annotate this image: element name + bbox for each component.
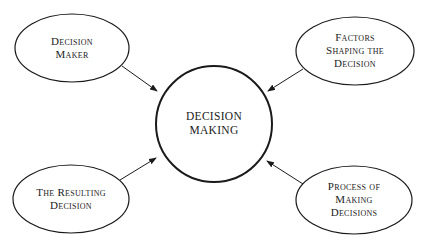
center-label-line-2: MAKING	[164, 123, 264, 137]
arrow-resulting-to-center	[120, 158, 156, 180]
node-label-line: Process of	[299, 180, 409, 193]
arrow-factors-to-center	[268, 69, 303, 91]
node-label-line: Decision	[300, 57, 410, 70]
node-label-line: Decision	[16, 199, 126, 212]
arrow-process-to-center	[267, 161, 303, 184]
node-label-line: Making	[299, 193, 409, 206]
node-label-decision-maker: Decision Maker	[22, 35, 122, 61]
center-label-line-1: DECISION	[164, 109, 264, 123]
node-label-line: Maker	[22, 48, 122, 61]
node-label-process-of-making: Process of Making Decisions	[299, 180, 409, 219]
node-label-factors-shaping: Factors Shaping the Decision	[300, 31, 410, 70]
arrow-decision-maker-to-center	[122, 66, 157, 91]
node-label-line: Shaping the	[300, 44, 410, 57]
node-label-line: Decision	[22, 35, 122, 48]
node-label-resulting-decision: The Resulting Decision	[16, 186, 126, 212]
node-label-line: The Resulting	[16, 186, 126, 199]
center-label: DECISION MAKING	[164, 109, 264, 137]
node-label-line: Decisions	[299, 206, 409, 219]
node-label-line: Factors	[300, 31, 410, 44]
